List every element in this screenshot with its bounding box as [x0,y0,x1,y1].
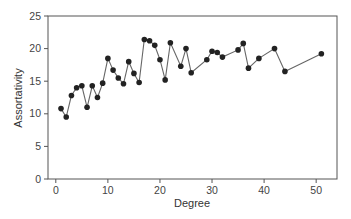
data-point [256,56,262,62]
data-points [58,37,324,120]
y-tick-label: 5 [35,140,41,152]
plot-frame [48,16,337,179]
data-point [121,81,127,87]
data-point [152,43,158,49]
data-point [126,59,132,65]
data-point [131,71,137,77]
data-point [162,77,168,83]
data-point [110,67,116,73]
x-axis-label: Degree [174,197,210,209]
data-point [89,83,95,89]
data-point [183,46,189,52]
data-point [100,80,106,86]
x-tick-label: 0 [53,184,59,196]
data-point [188,70,194,76]
data-point [246,65,252,71]
data-point [214,50,220,56]
x-tick-label: 10 [102,184,114,196]
data-point [220,54,226,60]
data-point [142,37,148,43]
x-tick-label: 50 [310,184,322,196]
data-point [282,69,288,75]
data-point [63,114,69,120]
data-point [204,57,210,63]
data-point [178,63,184,69]
data-point [157,57,163,63]
y-tick-label: 20 [29,42,41,54]
data-point [235,47,241,53]
y-axis: 0510152025 [29,10,48,185]
data-line [61,40,321,118]
y-tick-label: 15 [29,75,41,87]
data-point [115,75,121,81]
data-point [105,56,111,62]
x-tick-label: 30 [206,184,218,196]
y-tick-label: 0 [35,173,41,185]
data-point [240,41,246,47]
y-tick-label: 25 [29,10,41,22]
x-axis: 01020304050 [53,179,322,196]
data-point [58,106,64,112]
assortativity-degree-chart: 0510152025 01020304050 Degree Assortativ… [0,0,351,219]
x-tick-label: 20 [154,184,166,196]
data-point [95,95,101,101]
data-point [319,51,325,57]
data-point [69,93,75,99]
data-point [136,80,142,86]
data-point [168,40,174,46]
data-point [272,46,278,52]
data-point [74,85,80,91]
y-tick-label: 10 [29,107,41,119]
data-point [147,38,153,44]
y-axis-label: Assortativity [12,68,24,128]
data-point [209,48,215,54]
data-point [84,104,90,110]
x-tick-label: 40 [258,184,270,196]
data-point [79,83,85,89]
